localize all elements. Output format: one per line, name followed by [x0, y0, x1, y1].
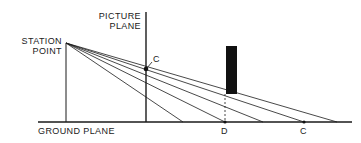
object-block: [226, 46, 237, 94]
picture-plane-label-1: PICTURE: [92, 11, 141, 21]
picture-plane-label-2: PLANE: [92, 21, 141, 31]
point-c-ground-marker: [302, 120, 305, 123]
ground-plane-label: GROUND PLANE: [38, 126, 115, 136]
station-point-label-1: STATION: [6, 36, 62, 46]
station-point-label-2: POINT: [6, 46, 62, 56]
point-c-picture-label: C: [153, 54, 160, 64]
perspective-diagram: [0, 0, 361, 143]
point-d-marker: [223, 120, 226, 123]
point-c-ground-label: C: [300, 126, 307, 136]
point-d-label: D: [221, 126, 228, 136]
projection-rays-ground: [66, 43, 337, 122]
